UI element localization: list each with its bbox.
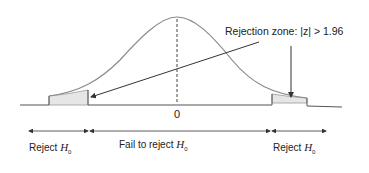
center-label: 0: [174, 108, 180, 120]
annotation-arrow-left: [91, 42, 259, 97]
region-label-reject-left: Reject H0: [29, 141, 71, 155]
region-label-fail-to-reject: Fail to reject H0: [119, 138, 188, 152]
region-label-reject-right: Reject H0: [273, 141, 315, 155]
rejection-zone-annotation: Rejection zone: |z| > 1.96: [225, 25, 343, 37]
axis-baseline: [20, 96, 49, 105]
